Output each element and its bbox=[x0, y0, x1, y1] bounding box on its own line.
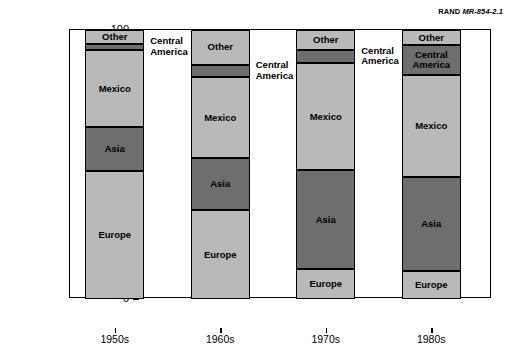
bar-segment-1970s-asia[interactable]: Asia bbox=[296, 170, 355, 270]
bar-segment-1980s-other[interactable]: Other bbox=[402, 30, 461, 45]
segment-label: Central America bbox=[413, 50, 451, 70]
credit-report-id: MR-854-2.1 bbox=[462, 7, 503, 16]
callout-central-america-1970s: Central America bbox=[361, 46, 399, 67]
segment-label: Europe bbox=[415, 280, 448, 290]
bar-segment-1960s-central-america[interactable] bbox=[191, 65, 250, 77]
bar-segment-1950s-mexico[interactable]: Mexico bbox=[85, 50, 144, 126]
segment-label: Asia bbox=[316, 215, 336, 225]
segment-label: Mexico bbox=[310, 112, 342, 122]
segment-label: Other bbox=[313, 35, 338, 45]
x-tick-label-1950s: 1950s bbox=[100, 333, 129, 345]
segment-label: Asia bbox=[105, 144, 125, 154]
bar-1970s[interactable]: EuropeAsiaMexicoOther bbox=[296, 30, 355, 299]
bar-segment-1970s-central-america[interactable] bbox=[296, 50, 355, 63]
credit-org: RAND bbox=[438, 7, 460, 16]
bar-segment-1980s-asia[interactable]: Asia bbox=[402, 177, 461, 271]
bar-1960s[interactable]: EuropeAsiaMexicoOther bbox=[191, 30, 250, 299]
callout-central-america-1960s: Central America bbox=[256, 60, 294, 81]
bar-segment-1980s-central-america[interactable]: Central America bbox=[402, 45, 461, 75]
bar-segment-1970s-europe[interactable]: Europe bbox=[296, 269, 355, 299]
plot-area: Share of arriving immigrants (percent) 1… bbox=[69, 29, 491, 298]
bar-segment-1950s-europe[interactable]: Europe bbox=[85, 171, 144, 299]
segment-label: Mexico bbox=[204, 113, 236, 123]
bar-1950s[interactable]: EuropeAsiaMexicoOther bbox=[85, 30, 144, 299]
segment-label: Asia bbox=[210, 179, 230, 189]
x-tick-label-1980s: 1980s bbox=[417, 333, 446, 345]
segment-label: Mexico bbox=[99, 84, 131, 94]
bar-1980s[interactable]: EuropeAsiaMexicoCentral AmericaOther bbox=[402, 30, 461, 299]
bar-segment-1970s-mexico[interactable]: Mexico bbox=[296, 63, 355, 170]
bar-segment-1960s-other[interactable]: Other bbox=[191, 30, 250, 65]
bar-segment-1960s-asia[interactable]: Asia bbox=[191, 158, 250, 210]
segment-label: Other bbox=[102, 32, 127, 42]
bar-segment-1970s-other[interactable]: Other bbox=[296, 30, 355, 50]
segment-label: Asia bbox=[421, 219, 441, 229]
segment-label: Mexico bbox=[415, 121, 447, 131]
rand-report-credit: RAND MR-854-2.1 bbox=[438, 7, 503, 16]
bar-segment-1950s-other[interactable]: Other bbox=[85, 30, 144, 44]
bar-segment-1960s-mexico[interactable]: Mexico bbox=[191, 77, 250, 158]
bar-segment-1980s-europe[interactable]: Europe bbox=[402, 271, 461, 299]
bar-segment-1950s-asia[interactable]: Asia bbox=[85, 127, 144, 171]
bar-segment-1960s-europe[interactable]: Europe bbox=[191, 210, 250, 299]
x-tick-label-1960s: 1960s bbox=[206, 333, 235, 345]
segment-label: Europe bbox=[309, 279, 342, 289]
segment-label: Other bbox=[419, 33, 444, 43]
segment-label: Europe bbox=[98, 230, 131, 240]
bar-segment-1980s-mexico[interactable]: Mexico bbox=[402, 75, 461, 177]
segment-label: Europe bbox=[204, 250, 237, 260]
x-tick-label-1970s: 1970s bbox=[311, 333, 340, 345]
callout-central-america-1950s: Central America bbox=[150, 36, 188, 57]
segment-label: Other bbox=[208, 42, 233, 52]
bar-segment-1950s-central-america[interactable] bbox=[85, 44, 144, 50]
